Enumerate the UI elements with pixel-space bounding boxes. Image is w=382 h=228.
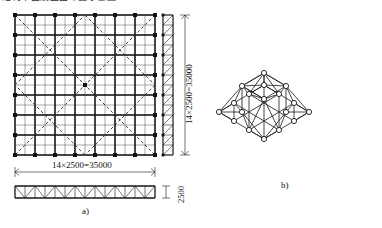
right-side-elevation-truss [162,14,173,157]
part-b-label: b) [281,180,289,190]
plan-view-grid [13,13,157,157]
depth-dimension-line [162,186,170,198]
part-a-label: a) [82,206,89,216]
dim-vertical-label: 14×2500=35000 [184,64,194,124]
bottom-elevation-truss [15,186,155,198]
isometric-space-frame [216,70,311,141]
dim-horizontal-label: 14×2500=35000 [52,160,112,170]
dim-depth-label: 2500 [176,186,186,203]
